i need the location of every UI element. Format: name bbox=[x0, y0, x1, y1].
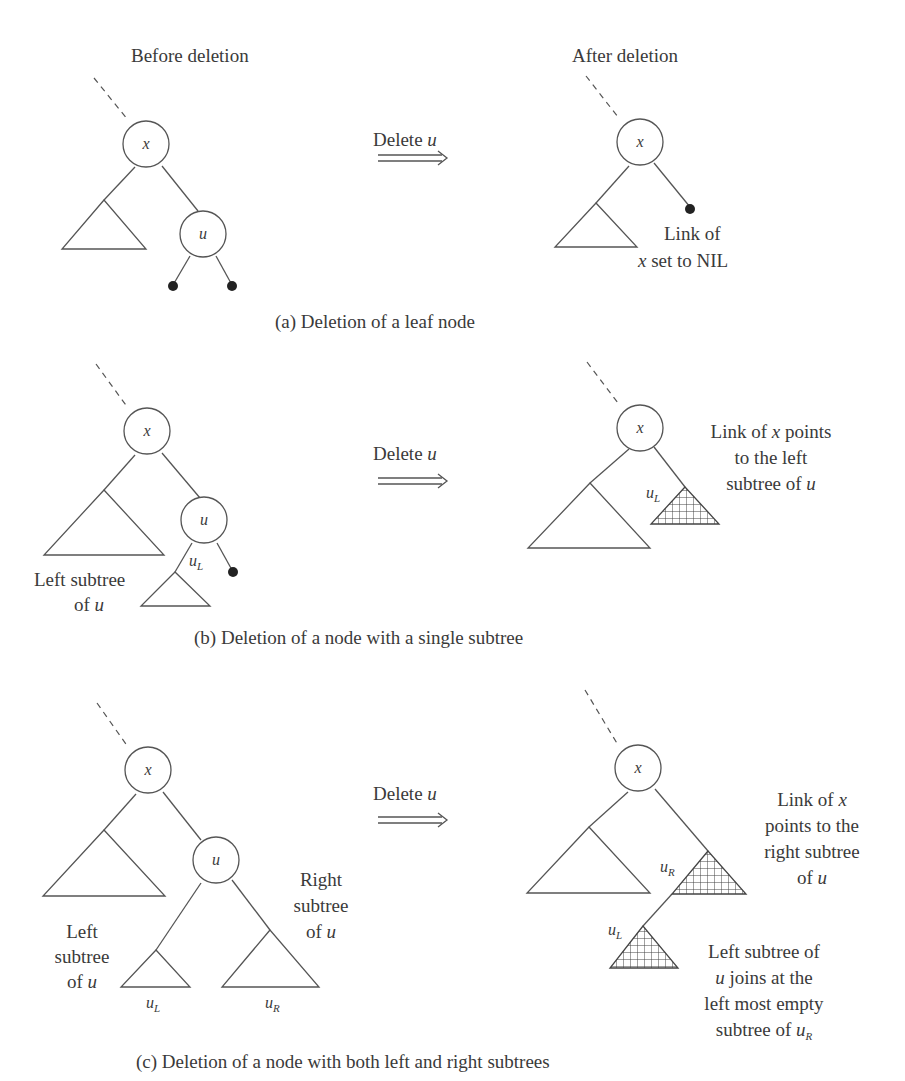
nil-dot bbox=[168, 281, 178, 291]
parent-link-dashed bbox=[587, 362, 618, 403]
note2-line1: Left subtree of bbox=[708, 941, 821, 962]
note2-line3: left most empty bbox=[704, 993, 824, 1014]
ul-label: uL bbox=[189, 552, 203, 572]
delete-label: Delete u bbox=[373, 783, 437, 804]
bst-deletion-diagram: Before deletion After deletion x u Delet… bbox=[0, 0, 905, 1081]
parent-link-dashed bbox=[586, 76, 618, 117]
delete-arrow-a: Delete u bbox=[373, 129, 447, 165]
nil-dot bbox=[228, 567, 238, 577]
double-arrow-icon bbox=[438, 813, 447, 827]
note2-line2: u joins at the bbox=[715, 967, 813, 988]
delete-arrow-b: Delete u bbox=[373, 443, 447, 488]
edge-u-left-nil bbox=[173, 256, 190, 285]
panel-b: x u uL Left subtree of u Delete u x uL bbox=[34, 362, 831, 649]
svg-text:x: x bbox=[635, 419, 643, 436]
note-line1: Link of x points bbox=[711, 421, 832, 442]
nil-dot bbox=[227, 281, 237, 291]
nil-note-line2: x set to NIL bbox=[637, 250, 728, 271]
svg-text:x: x bbox=[633, 759, 641, 776]
left-label-line2: subtree bbox=[55, 946, 110, 967]
delete-label: Delete u bbox=[373, 129, 437, 150]
right-label-line2: subtree bbox=[294, 895, 349, 916]
note1-line1: Link of x bbox=[777, 789, 847, 810]
left-subtree-triangle bbox=[528, 483, 650, 548]
edge-x-u bbox=[162, 166, 198, 211]
after-deletion-title: After deletion bbox=[572, 45, 679, 66]
parent-link-dashed bbox=[94, 78, 128, 120]
edge-x-left bbox=[104, 167, 135, 200]
node-x-label: x bbox=[141, 135, 149, 152]
after-tree-a: x Link of x set to NIL bbox=[555, 76, 728, 271]
left-subtree-triangle bbox=[62, 200, 146, 249]
nil-dot bbox=[685, 204, 695, 214]
after-tree-b: x uL Link of x points to the left subtre… bbox=[528, 362, 831, 548]
ul-subtree-triangle bbox=[121, 950, 190, 987]
left-subtree-triangle bbox=[44, 490, 164, 555]
double-arrow-icon bbox=[438, 151, 447, 165]
parent-link-dashed bbox=[96, 364, 128, 408]
ul-label: uL bbox=[646, 484, 660, 504]
left-subtree-triangle bbox=[43, 830, 165, 896]
panel-c: x u uL uR Left subtree of u Right subtre… bbox=[43, 690, 860, 1073]
delete-label: Delete u bbox=[373, 443, 437, 464]
ul-label: uL bbox=[146, 994, 160, 1014]
note1-line3: right subtree bbox=[764, 841, 860, 862]
double-arrow-icon bbox=[438, 474, 447, 488]
ul-label: uL bbox=[608, 921, 622, 941]
left-subtree-label-line1: Left subtree bbox=[34, 569, 125, 590]
before-tree-b: x u uL Left subtree of u bbox=[34, 364, 238, 615]
right-label-line1: Right bbox=[300, 869, 343, 890]
svg-text:x: x bbox=[143, 761, 151, 778]
ur-label: uR bbox=[660, 858, 675, 878]
note-line3: subtree of u bbox=[726, 473, 816, 494]
note1-line2: points to the bbox=[765, 815, 859, 836]
ul-hatched-subtree bbox=[651, 487, 719, 524]
svg-text:x: x bbox=[142, 422, 150, 439]
before-tree-c: x u uL uR Left subtree of u Right subtre… bbox=[43, 703, 348, 1014]
delete-arrow-c: Delete u bbox=[373, 783, 447, 827]
edge-u-right-nil bbox=[216, 256, 232, 285]
parent-link-dashed bbox=[585, 690, 618, 745]
panel-a: Before deletion After deletion x u Delet… bbox=[62, 45, 728, 333]
node-u-label: u bbox=[199, 225, 207, 242]
before-tree-a: x u bbox=[62, 78, 237, 291]
u-left-subtree-triangle bbox=[141, 572, 210, 606]
svg-text:u: u bbox=[200, 511, 208, 528]
nil-note-line1: Link of bbox=[664, 223, 721, 244]
ur-subtree-triangle bbox=[222, 930, 319, 987]
note-line2: to the left bbox=[735, 447, 809, 468]
caption-c: (c) Deletion of a node with both left an… bbox=[136, 1051, 550, 1073]
left-label-line1: Left bbox=[66, 921, 98, 942]
caption-a: (a) Deletion of a leaf node bbox=[275, 311, 475, 333]
left-subtree-label-line2: of u bbox=[74, 594, 104, 615]
before-deletion-title: Before deletion bbox=[131, 45, 249, 66]
right-label-line3: of u bbox=[306, 921, 336, 942]
ur-label: uR bbox=[265, 994, 280, 1014]
svg-text:u: u bbox=[212, 851, 220, 868]
left-label-line3: of u bbox=[67, 971, 97, 992]
left-subtree-triangle bbox=[527, 827, 650, 893]
note1-line4: of u bbox=[797, 867, 827, 888]
parent-link-dashed bbox=[97, 703, 128, 747]
caption-b: (b) Deletion of a node with a single sub… bbox=[194, 627, 523, 649]
left-subtree-triangle bbox=[555, 203, 637, 247]
ur-hatched-subtree bbox=[672, 851, 746, 894]
svg-text:x: x bbox=[635, 133, 643, 150]
after-tree-c: x uR uL Link of x points to the right su… bbox=[527, 690, 860, 1042]
note2-line4: subtree of uR bbox=[716, 1019, 813, 1042]
